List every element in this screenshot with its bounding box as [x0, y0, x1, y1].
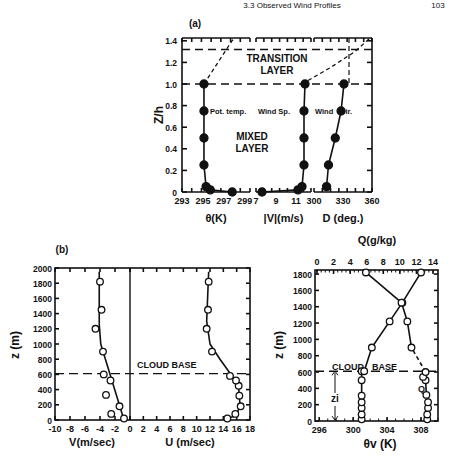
filled-data-point	[258, 188, 266, 196]
x-axis-label: θ(K)	[205, 212, 227, 224]
filled-data-point	[200, 107, 208, 115]
wind-dir-label: Dir.	[340, 107, 352, 116]
y-tick-label: 1200	[293, 319, 312, 329]
y-tick-label: 200	[38, 400, 52, 410]
q-axis-label: Q(g/kg)	[358, 234, 397, 246]
open-data-point	[205, 307, 212, 314]
y-tick-label: 400	[298, 384, 312, 394]
top-tick-label: 8	[381, 257, 386, 267]
filled-data-point	[200, 134, 208, 142]
base-label: BASE	[372, 362, 397, 372]
page-number: 103	[431, 1, 445, 10]
wind-dir-label: Wind	[315, 107, 334, 116]
open-data-point	[358, 377, 365, 384]
top-tick-label: 12	[411, 257, 421, 267]
open-data-point	[203, 326, 210, 333]
open-data-point	[97, 278, 104, 285]
figure-canvas: 3.3 Observed Wind Profiles103(a)00.20.40…	[0, 0, 453, 461]
u-fit-line	[207, 272, 240, 419]
y-tick-label: 0.4	[165, 144, 177, 154]
y-tick-label: 1000	[293, 335, 312, 345]
speed-transition-curve	[302, 38, 370, 84]
x-tick-label: 308	[414, 425, 429, 435]
y-tick-label: 0.8	[165, 101, 177, 111]
x-tick-label: 11	[291, 196, 301, 206]
open-data-point	[116, 403, 123, 410]
top-tick-label: 2	[331, 257, 336, 267]
open-data-point	[224, 415, 231, 422]
y-tick-label: 2000	[33, 264, 52, 274]
filled-data-point	[228, 188, 236, 196]
top-tick-label: 0	[314, 257, 319, 267]
top-tick-label: 10	[395, 257, 405, 267]
x-tick-label: 12	[205, 424, 215, 434]
open-data-point	[408, 344, 415, 351]
x-tick-label: 7	[253, 196, 258, 206]
open-data-point	[423, 392, 430, 399]
top-tick-label: 6	[364, 257, 369, 267]
filled-data-point	[200, 161, 208, 169]
panel-b-frame	[55, 268, 250, 420]
x-axis-label: |V|(m/s)	[264, 212, 304, 224]
x-tick-label: -2	[111, 424, 119, 434]
y-tick-label: 1800	[33, 279, 52, 289]
open-data-point	[369, 344, 376, 351]
y-tick-label: 1600	[293, 286, 312, 296]
transition-layer-label: TRANSITION	[246, 53, 307, 64]
y-tick-label: 1000	[33, 340, 52, 350]
x-tick-label: -8	[66, 424, 74, 434]
open-data-point	[418, 269, 425, 276]
open-data-point	[209, 348, 216, 355]
open-data-point	[233, 377, 240, 384]
x-tick-label: 0	[127, 424, 132, 434]
wind-speed-label: Wind Sp.	[258, 107, 290, 116]
open-data-point	[237, 403, 244, 410]
panel-a-label: (a)	[189, 18, 201, 29]
open-data-point	[205, 278, 212, 285]
u-axis-label: U (m/sec)	[165, 436, 215, 448]
y-tick-label: 1.0	[165, 80, 177, 90]
x-tick-label: 297	[216, 196, 231, 206]
q-curve-upper	[366, 272, 412, 347]
open-data-point	[100, 371, 107, 378]
y-tick-label: 600	[298, 368, 312, 378]
filled-data-point	[300, 161, 308, 169]
profile-line	[262, 84, 305, 192]
x-tick-label: 6	[167, 424, 172, 434]
open-data-point	[358, 411, 365, 418]
open-data-point	[404, 318, 411, 325]
open-data-point	[361, 368, 368, 375]
open-data-point	[236, 392, 243, 399]
x-tick-label: 360	[364, 196, 379, 206]
open-data-point	[363, 269, 370, 276]
mixed-layer-label: LAYER	[236, 143, 270, 154]
pot-temp-label: Pot. temp.	[210, 107, 246, 116]
y-tick-label: 800	[38, 355, 52, 365]
y-tick-label: 200	[298, 400, 312, 410]
open-data-point	[103, 392, 110, 399]
top-tick-label: 4	[348, 257, 353, 267]
top-tick-label: 14	[428, 257, 438, 267]
y-tick-label: 1400	[33, 309, 52, 319]
open-data-point	[386, 318, 393, 325]
y-tick-label: 1.4	[165, 36, 177, 46]
open-data-point	[232, 411, 239, 418]
open-data-point	[121, 415, 128, 422]
x-tick-label: 10	[192, 424, 202, 434]
open-data-point	[107, 377, 114, 384]
filled-data-point	[202, 183, 210, 191]
x-tick-label: 16	[232, 424, 242, 434]
open-data-point	[358, 399, 365, 406]
filled-data-point	[300, 134, 308, 142]
x-tick-label: 295	[195, 196, 210, 206]
y-tick-label: 400	[38, 385, 52, 395]
open-data-point	[425, 399, 432, 406]
filled-data-point	[323, 183, 331, 191]
transition-layer-label: LAYER	[261, 65, 295, 76]
x-tick-label: 300	[306, 196, 321, 206]
open-data-point	[398, 299, 405, 306]
x-axis-label: D (deg.)	[323, 212, 364, 224]
x-tick-label: 296	[312, 425, 327, 435]
q-curve-dashed	[411, 348, 425, 372]
panel-a-ylabel: Z/h	[152, 106, 166, 124]
